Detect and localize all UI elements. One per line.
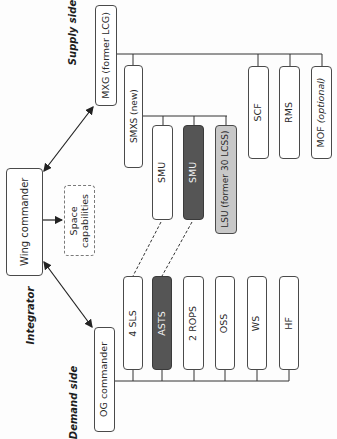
rms-label: RMS: [284, 102, 295, 123]
smu-sls-dashed-link: [133, 222, 161, 276]
smu-label-1: SMU: [157, 162, 168, 183]
wing-commander-box: Wing commander: [6, 168, 43, 276]
mof-label: MOF (optional): [316, 77, 327, 147]
demand-unit-ws: WS: [247, 276, 267, 370]
demand-unit-sls-label: 4 SLS: [128, 310, 139, 336]
scf-box: SCF: [248, 66, 269, 159]
smxs-box: SMXS (new): [124, 65, 143, 168]
lsu-label: LSU (former 30 LCSS): [221, 131, 231, 228]
rms-box: RMS: [279, 66, 300, 159]
smu-box-2: SMU: [183, 125, 204, 220]
lsu-box: LSU (former 30 LCSS): [215, 125, 237, 234]
demand-unit-asts: ASTS: [152, 276, 172, 370]
mof-box: MOF (optional): [311, 66, 332, 159]
smu-asts-dashed-link: [162, 222, 192, 276]
demand-unit-sls: 4 SLS: [123, 276, 143, 370]
smu-label-2: SMU: [188, 162, 199, 183]
demand-unit-asts-label: ASTS: [157, 311, 168, 335]
mof-text: MOF (optional): [315, 77, 326, 147]
wing-og-arrow: [44, 262, 92, 327]
demand-unit-oss: OSS: [215, 276, 235, 370]
og-commander-box: OG commander: [94, 327, 115, 432]
demand-unit-rops: 2 ROPS: [183, 276, 204, 370]
demand-unit-hf-label: HF: [284, 317, 295, 330]
demand-side-label: Demand side: [68, 366, 79, 439]
integrator-label: Integrator: [25, 287, 36, 345]
demand-unit-hf: HF: [279, 276, 299, 370]
mxg-label: MXG (former LCG): [101, 12, 112, 99]
space-capabilities-line1: Space: [69, 193, 80, 247]
og-commander-label: OG commander: [99, 342, 110, 417]
wing-mxg-arrow: [44, 107, 93, 171]
smu-box-1: SMU: [152, 125, 173, 220]
space-capabilities-label: Space capabilities: [69, 193, 91, 247]
demand-unit-rops-label: 2 ROPS: [188, 306, 199, 341]
demand-unit-oss-label: OSS: [220, 313, 231, 333]
scf-label: SCF: [253, 103, 264, 121]
space-capabilities-box: Space capabilities: [64, 185, 95, 256]
supply-side-label: Supply side: [67, 0, 78, 65]
smxs-label: SMXS (new): [128, 90, 138, 144]
wing-commander-label: Wing commander: [19, 178, 31, 267]
demand-tree: [115, 370, 289, 381]
space-capabilities-line2: capabilities: [80, 193, 91, 247]
mxg-box: MXG (former LCG): [95, 5, 117, 106]
demand-unit-ws-label: WS: [252, 315, 263, 330]
